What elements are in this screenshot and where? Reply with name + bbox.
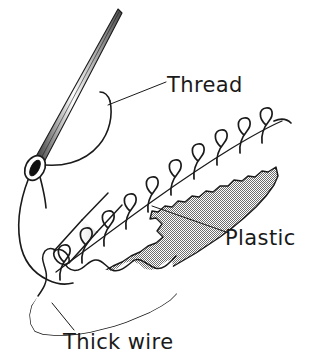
label-thick-wire: Thick wire — [62, 330, 173, 354]
label-plastic: Plastic — [225, 226, 296, 250]
diagram-canvas: Thread Plastic Thick wire — [0, 0, 309, 357]
sewing-diagram: Thread Plastic Thick wire — [0, 0, 309, 357]
label-thread: Thread — [166, 73, 243, 97]
